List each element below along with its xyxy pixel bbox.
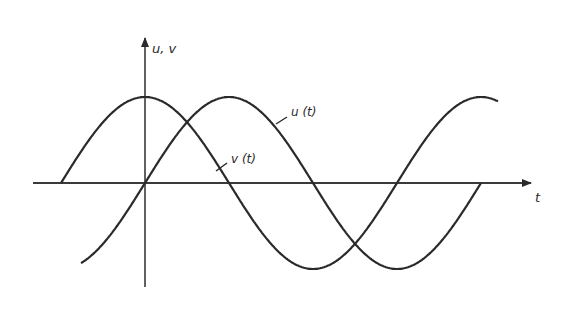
sinusoid-diagram <box>0 0 578 314</box>
x-axis-label: t <box>535 191 540 204</box>
u-curve-label: u (t) <box>291 106 317 118</box>
v-curve-label: v (t) <box>231 153 256 165</box>
y-axis-label: u, v <box>152 42 176 55</box>
u-label-leader <box>276 117 287 124</box>
